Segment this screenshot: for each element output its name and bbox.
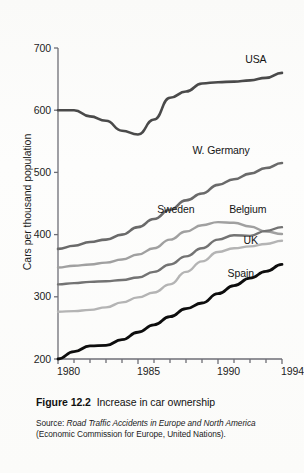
source-publisher: (Economic Commission for Europe, United … xyxy=(36,429,226,439)
source-label: Source: xyxy=(36,418,64,428)
y-tick-label: 700 xyxy=(17,42,51,54)
y-tick-label: 600 xyxy=(17,104,51,116)
line-chart: Cars per thousand population 20030040050… xyxy=(0,0,304,380)
caption-block: Figure 12.2 Increase in car ownership So… xyxy=(36,396,282,440)
figure-title: Increase in car ownership xyxy=(97,396,215,408)
y-tick-label: 500 xyxy=(17,166,51,178)
y-axis-title: Cars per thousand population xyxy=(21,112,33,292)
series-label-uk: UK xyxy=(244,234,258,246)
series-label-belgium: Belgium xyxy=(229,203,266,215)
figure-caption: Figure 12.2 Increase in car ownership xyxy=(36,396,282,409)
source-note: Source: Road Traffic Accidents in Europe… xyxy=(36,418,282,440)
y-tick-label: 300 xyxy=(17,290,51,302)
series-label-spain: Spain xyxy=(228,267,254,279)
x-tick-label: 1994 xyxy=(281,365,304,377)
series-label-sweden: Sweden xyxy=(157,203,194,215)
figure-page: Cars per thousand population 20030040050… xyxy=(0,0,304,473)
x-tick-label: 1990 xyxy=(217,365,240,377)
figure-number: Figure 12.2 xyxy=(36,396,91,408)
x-tick-label: 1980 xyxy=(57,365,80,377)
y-tick-label: 200 xyxy=(17,353,51,365)
series-line-usa xyxy=(58,73,282,135)
y-tick-label: 400 xyxy=(17,228,51,240)
x-tick-label: 1985 xyxy=(137,365,160,377)
series-label-usa: USA xyxy=(245,53,266,65)
series-label-w-germany: W. Germany xyxy=(192,144,249,156)
source-title: Road Traffic Accidents in Europe and Nor… xyxy=(67,418,256,428)
